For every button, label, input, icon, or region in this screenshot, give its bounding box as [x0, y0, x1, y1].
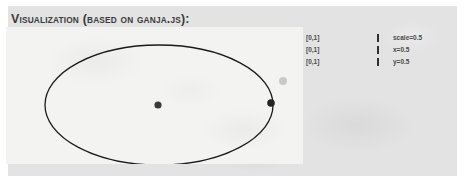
control-row-x: [0,1] x=0.5: [303, 44, 453, 56]
parameter-controls: [0,1] scale=0.5 [0,1] x=0.5 [0,1] y=0.5: [303, 27, 453, 164]
slider-handle-y[interactable]: [377, 58, 380, 66]
ghost-point: [279, 77, 287, 85]
edge-point[interactable]: [267, 99, 275, 107]
control-range-label-scale: [0,1]: [306, 32, 319, 44]
ganja-visualization-canvas[interactable]: [6, 27, 303, 164]
geometry-svg: [6, 27, 303, 164]
figure-title: Visualization (based on ganja.js):: [11, 11, 190, 26]
control-range-label-y: [0,1]: [306, 56, 319, 68]
control-value-label-x: x=0.5: [393, 44, 409, 56]
control-range-label-x: [0,1]: [306, 44, 319, 56]
control-value-label-scale: scale=0.5: [393, 32, 422, 44]
slider-handle-x[interactable]: [377, 46, 380, 54]
control-value-label-y: y=0.5: [393, 56, 409, 68]
center-point[interactable]: [154, 101, 161, 108]
slider-handle-scale[interactable]: [377, 34, 380, 42]
control-row-y: [0,1] y=0.5: [303, 56, 453, 68]
control-row-scale: [0,1] scale=0.5: [303, 32, 453, 44]
figure-container: Visualization (based on ganja.js): [0,1]…: [0, 0, 467, 193]
